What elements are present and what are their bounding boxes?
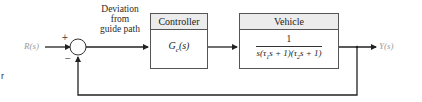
denominator: s(τ1s + 1)(τ2s + 1) — [256, 48, 321, 63]
fraction: 1 s(τ1s + 1)(τ2s + 1) — [256, 34, 321, 63]
error-label-line-3: guide path — [92, 24, 148, 34]
tf-symbol: G — [169, 40, 176, 51]
output-label: Y(s) — [379, 41, 394, 51]
input-label: R(s) — [24, 41, 39, 51]
error-label-line-2: from — [92, 14, 148, 24]
den-part: s(τ — [256, 48, 266, 58]
vehicle-block: Vehicle 1 s(τ1s + 1)(τ2s + 1) — [239, 13, 339, 69]
error-label-line-1: Deviation — [92, 4, 148, 14]
edge-mark: r — [1, 71, 4, 81]
tf-argument: (s) — [179, 40, 190, 51]
den-part: s + 1)(τ — [269, 48, 297, 58]
vehicle-header: Vehicle — [240, 14, 338, 30]
numerator: 1 — [256, 34, 321, 45]
den-part: s + 1) — [300, 48, 322, 58]
error-signal-label: Deviation from guide path — [92, 4, 148, 34]
controller-header: Controller — [151, 14, 207, 30]
summing-junction — [70, 39, 86, 55]
minus-sign: − — [65, 53, 71, 64]
vehicle-transfer-function: 1 s(τ1s + 1)(τ2s + 1) — [240, 30, 338, 63]
signal-wiring — [0, 0, 422, 102]
controller-transfer-function: Gc(s) — [151, 30, 207, 54]
controller-block: Controller Gc(s) — [150, 13, 208, 69]
plus-sign: + — [62, 32, 68, 43]
fraction-bar — [256, 46, 321, 47]
